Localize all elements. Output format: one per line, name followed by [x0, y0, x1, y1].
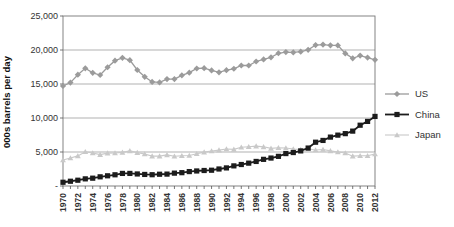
triangle-marker: [82, 149, 88, 154]
y-tick-label: 20,000: [30, 45, 58, 55]
diamond-marker: [268, 54, 274, 60]
diamond-marker: [320, 41, 326, 47]
square-marker: [120, 171, 125, 176]
diamond-marker: [372, 57, 378, 63]
x-tick-label: 1972: [73, 193, 83, 212]
x-tick-label: 1984: [162, 193, 172, 212]
diamond-marker: [208, 67, 214, 73]
diamond-marker: [90, 70, 96, 76]
y-tick-label: 15,000: [30, 79, 58, 89]
y-tick-label: 25,000: [30, 11, 58, 21]
diamond-marker: [364, 55, 370, 61]
square-marker: [142, 172, 147, 177]
diamond-marker: [305, 47, 311, 53]
square-marker: [358, 123, 363, 128]
diamond-marker: [231, 66, 237, 72]
square-marker: [276, 154, 281, 159]
series-line: [63, 45, 375, 86]
square-marker: [105, 173, 110, 178]
diamond-marker: [246, 62, 252, 68]
square-marker: [246, 161, 251, 166]
square-marker: [350, 129, 355, 134]
square-marker: [231, 163, 236, 168]
diamond-marker: [238, 62, 244, 68]
square-marker: [150, 172, 155, 177]
square-marker: [313, 140, 318, 145]
x-tick-label: 1994: [236, 193, 246, 212]
diamond-marker: [216, 69, 222, 75]
square-marker: [239, 162, 244, 167]
series-japan: [60, 143, 378, 162]
square-marker: [394, 112, 399, 117]
square-marker: [75, 178, 80, 183]
diamond-marker: [275, 50, 281, 56]
triangle-marker: [164, 152, 170, 157]
x-tick-label: 1976: [103, 193, 113, 212]
diamond-marker: [171, 76, 177, 82]
square-marker: [60, 180, 65, 185]
x-tick-label: 1996: [251, 193, 261, 212]
square-marker: [328, 135, 333, 140]
x-tick-label: 2000: [281, 193, 291, 212]
diamond-marker: [119, 55, 125, 61]
square-marker: [68, 179, 73, 184]
square-marker: [224, 165, 229, 170]
plot-area: -5,00010,00015,00020,00025,0001970197219…: [30, 11, 380, 212]
square-marker: [335, 133, 340, 138]
y-tick-label: 10,000: [30, 113, 58, 123]
diamond-marker: [312, 42, 318, 48]
diamond-marker: [164, 76, 170, 82]
square-marker: [164, 172, 169, 177]
oil-consumption-line-chart: -5,00010,00015,00020,00025,0001970197219…: [0, 0, 454, 227]
legend-label: Japan: [415, 129, 441, 140]
x-tick-label: 2010: [355, 193, 365, 212]
x-tick-label: 2008: [340, 193, 350, 212]
diamond-marker: [186, 70, 192, 76]
plot-frame: [63, 16, 375, 186]
line-chart-svg: -5,00010,00015,00020,00025,0001970197219…: [0, 0, 454, 227]
square-marker: [194, 168, 199, 173]
square-marker: [291, 150, 296, 155]
square-marker: [209, 168, 214, 173]
legend-item-us: US: [385, 88, 428, 99]
square-marker: [179, 170, 184, 175]
diamond-marker: [260, 56, 266, 62]
y-tick-label: -: [55, 181, 58, 191]
square-marker: [83, 176, 88, 181]
y-axis-title: 000s barrels per day: [1, 55, 12, 148]
square-marker: [135, 171, 140, 176]
x-tick-label: 1980: [132, 193, 142, 212]
legend-label: US: [415, 88, 428, 99]
square-marker: [298, 148, 303, 153]
square-marker: [90, 176, 95, 181]
square-marker: [127, 171, 132, 176]
x-tick-label: 2012: [370, 193, 380, 212]
x-tick-label: 2006: [326, 193, 336, 212]
square-marker: [306, 145, 311, 150]
diamond-marker: [327, 42, 333, 48]
diamond-marker: [156, 79, 162, 85]
square-marker: [98, 174, 103, 179]
legend-label: China: [415, 109, 441, 120]
square-marker: [216, 166, 221, 171]
legend: USChinaJapan: [385, 88, 441, 140]
square-marker: [172, 171, 177, 176]
y-tick-label: 5,000: [35, 147, 58, 157]
x-tick-label: 1990: [207, 193, 217, 212]
square-marker: [268, 155, 273, 160]
triangle-marker: [127, 148, 133, 153]
x-tick-label: 1992: [222, 193, 232, 212]
x-tick-label: 1986: [177, 193, 187, 212]
diamond-marker: [357, 52, 363, 58]
x-tick-label: 1974: [88, 193, 98, 212]
series-us: [60, 41, 378, 89]
square-marker: [157, 172, 162, 177]
x-tick-label: 1998: [266, 193, 276, 212]
x-tick-label: 2004: [311, 193, 321, 212]
diamond-marker: [179, 72, 185, 78]
x-tick-label: 1978: [118, 193, 128, 212]
square-marker: [187, 169, 192, 174]
square-marker: [254, 159, 259, 164]
x-tick-label: 1970: [58, 193, 68, 212]
square-marker: [283, 151, 288, 156]
